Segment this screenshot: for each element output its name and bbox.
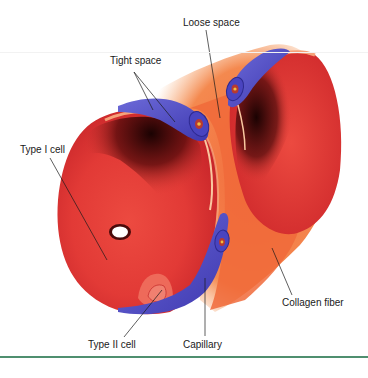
- label-loose-space: Loose space: [183, 18, 240, 28]
- alveolus-illustration: [0, 0, 368, 378]
- label-capillary: Capillary: [183, 340, 222, 350]
- label-collagen-fiber: Collagen fiber: [282, 298, 344, 308]
- label-type-i-cell: Type I cell: [20, 145, 65, 155]
- label-type-ii-cell: Type II cell: [88, 340, 136, 350]
- label-tight-space: Tight space: [110, 56, 161, 66]
- alveolus-diagram: Loose space Tight space Type I cell Type…: [0, 0, 368, 378]
- bottom-divider: [0, 356, 368, 358]
